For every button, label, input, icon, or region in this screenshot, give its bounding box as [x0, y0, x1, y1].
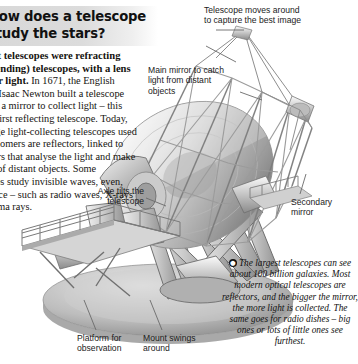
callout-mount-swings: Mount swings around [143, 333, 205, 354]
callout-main-mirror: Main mirror to catch light from distant … [148, 65, 244, 96]
callout-platform: Platform for observation [77, 333, 137, 354]
fact-box-text: The largest telescopes can see about 100… [222, 258, 358, 346]
fact-box: ●The largest telescopes can see about 10… [222, 258, 358, 348]
callout-axle-tilts: Axle tilts the telescope [72, 186, 144, 207]
book-page: How does a telescope study the stars? [0, 0, 358, 364]
page-title: How does a telescope study the stars? [0, 9, 163, 42]
callout-secondary-mirror: Secondary mirror [291, 197, 351, 218]
info-bullet-icon: ● [229, 259, 237, 267]
callout-telescope-moves: Telescope moves around to capture the be… [204, 5, 354, 26]
